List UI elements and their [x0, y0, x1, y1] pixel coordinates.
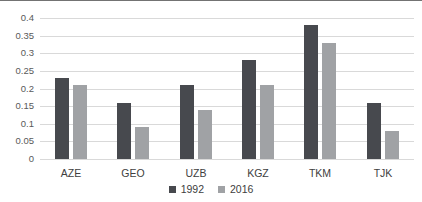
gridline: [40, 106, 414, 107]
y-axis-tick-label: 0.35: [0, 30, 34, 42]
legend-label: 2016: [230, 183, 253, 195]
gridline: [40, 159, 414, 160]
gridline: [40, 71, 414, 72]
bar-1992-GEO: [117, 103, 131, 159]
y-axis-tick-label: 0.3: [0, 47, 34, 59]
bar-2016-TJK: [385, 131, 399, 159]
legend-marker-icon: [169, 186, 176, 193]
bar-1992-AZE: [55, 78, 69, 159]
gridline: [40, 18, 414, 19]
y-axis-tick-label: 0.05: [0, 135, 34, 147]
bar-1992-TKM: [304, 25, 318, 159]
x-axis-category-label: GEO: [102, 167, 164, 179]
legend-marker-icon: [218, 186, 225, 193]
bar-2016-UZB: [198, 110, 212, 159]
bar-1992-KGZ: [242, 60, 256, 159]
bar-2016-AZE: [73, 85, 87, 159]
gridline: [40, 141, 414, 142]
legend: 19922016: [0, 183, 422, 195]
plot-area: [40, 18, 414, 159]
y-axis-tick-label: 0.25: [0, 65, 34, 77]
y-axis-tick-label: 0.4: [0, 12, 34, 24]
x-axis-category-label: UZB: [165, 167, 227, 179]
legend-item-2016: 2016: [218, 183, 253, 195]
gridline: [40, 53, 414, 54]
legend-label: 1992: [181, 183, 204, 195]
x-axis-category-label: TKM: [289, 167, 351, 179]
y-axis-tick-label: 0.15: [0, 100, 34, 112]
gridline: [40, 124, 414, 125]
x-axis-category-label: AZE: [40, 167, 102, 179]
bar-2016-GEO: [135, 127, 149, 159]
bar-chart: 19922016 00.050.10.150.20.250.30.350.4AZ…: [0, 0, 422, 202]
gridline: [40, 36, 414, 37]
x-axis-category-label: TJK: [352, 167, 414, 179]
y-axis-tick-label: 0.1: [0, 118, 34, 130]
bar-1992-UZB: [180, 85, 194, 159]
y-axis-tick-label: 0: [0, 153, 34, 165]
bar-1992-TJK: [367, 103, 381, 159]
y-axis-tick-label: 0.2: [0, 83, 34, 95]
x-axis-category-label: KGZ: [227, 167, 289, 179]
legend-item-1992: 1992: [169, 183, 204, 195]
bar-2016-KGZ: [260, 85, 274, 159]
gridline: [40, 89, 414, 90]
